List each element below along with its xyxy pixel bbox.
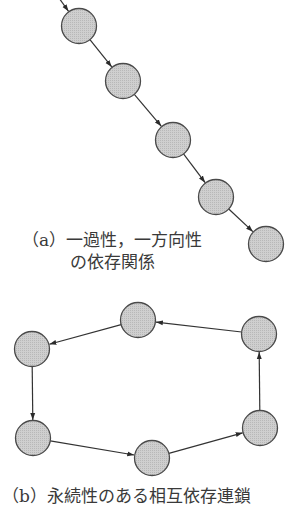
cycle-node-b5 (243, 411, 278, 446)
chain-node-a3 (156, 123, 191, 158)
caption-b: （b）永続性のある相互依存連鎖 (2, 485, 251, 507)
edges-layer (32, 0, 260, 455)
cycle-edge-arrow (32, 366, 33, 420)
cycle-node-b6 (242, 317, 277, 352)
chain-edge-arrow (59, 0, 69, 11)
chain-edge-arrow (134, 94, 161, 126)
cycle-node-b3 (16, 421, 51, 456)
chain-node-a2 (106, 64, 141, 99)
cycle-node-b2 (15, 332, 50, 367)
chain-edge-arrow (90, 40, 112, 67)
cycle-node-b1 (121, 303, 156, 338)
cycle-edge-arrow (156, 322, 242, 332)
chain-node-a4 (199, 180, 234, 215)
caption-a-line1: （a）一過性，一方向性 (22, 229, 202, 251)
chain-node-a1 (62, 9, 97, 44)
chain-node-a5 (249, 227, 284, 262)
cycle-edge-arrow (50, 441, 134, 455)
cycle-edge-arrow (169, 433, 243, 453)
cycle-edge-arrow (49, 325, 121, 345)
chain-edge-arrow (229, 209, 253, 232)
chain-edge-arrow (184, 154, 206, 183)
caption-a-line2: の依存関係 (70, 251, 155, 273)
cycle-node-b4 (135, 441, 170, 476)
cycle-edge-arrow (259, 352, 260, 411)
